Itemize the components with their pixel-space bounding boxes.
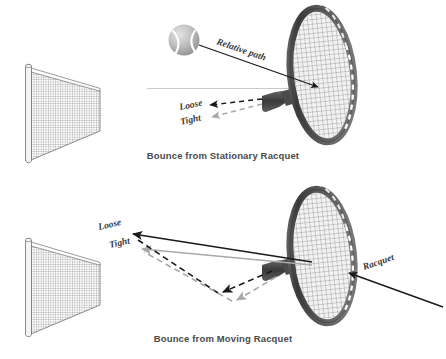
tennis-ball <box>169 25 200 56</box>
caption-stationary: Bounce from Stationary Racquet <box>147 150 300 161</box>
caption-moving: Bounce from Moving Racquet <box>154 333 293 344</box>
net-post <box>26 238 32 337</box>
net-post <box>26 64 32 163</box>
net-post-cap <box>26 64 32 67</box>
net-post-cap <box>26 238 32 241</box>
tennis-bounce-diagram: Relative path Loose Tight Bounce from St… <box>0 0 446 359</box>
